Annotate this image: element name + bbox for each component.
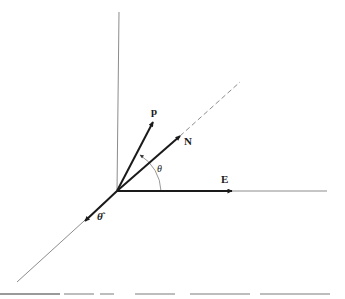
- N-vector: [117, 136, 180, 191]
- theta-hat-label: θ̂: [97, 211, 103, 222]
- vertical-axis: [117, 12, 119, 191]
- figure-caption-cutoff: [0, 293, 345, 299]
- p-label: p: [151, 106, 157, 117]
- N-dashed-extension: [180, 82, 240, 136]
- N-label: N: [184, 136, 192, 147]
- theta-label: θ: [157, 164, 162, 174]
- vector-diagram: [0, 0, 345, 299]
- p-vector: [117, 122, 153, 191]
- E-label: E: [221, 174, 228, 185]
